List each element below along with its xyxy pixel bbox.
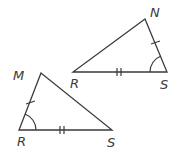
vertex-label-M: M xyxy=(13,68,24,83)
vertex-label-R: R xyxy=(70,76,79,91)
vertex-label-S: S xyxy=(107,135,115,150)
triangle-lower: M R S xyxy=(13,68,115,150)
triangle-upper: N R S xyxy=(70,5,168,92)
vertex-label-S: S xyxy=(160,77,168,92)
congruent-triangles-diagram: N R S M R S xyxy=(0,0,174,155)
angle-arc-S xyxy=(150,56,161,72)
triangle-upper-outline xyxy=(73,19,167,72)
angle-arc-R xyxy=(25,114,36,130)
vertex-label-N: N xyxy=(150,5,160,20)
vertex-label-R: R xyxy=(17,134,26,149)
